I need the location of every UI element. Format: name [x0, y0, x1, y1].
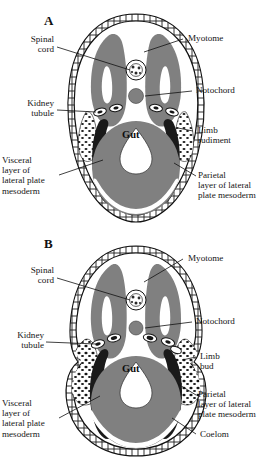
- label-spinal-cord-a: Spinal cord: [0, 34, 54, 54]
- embryo-body-a: [68, 14, 204, 222]
- label-visceral-layer-a: Visceral layer of lateral plate mesoderm: [2, 155, 62, 196]
- label-kidney-tubule-b: Kidney tubule: [0, 330, 44, 350]
- embryo-body-b: [66, 246, 206, 456]
- label-notochord-a: Notochord: [196, 85, 272, 95]
- label-coelom-b: Coelom: [200, 429, 272, 439]
- label-parietal-layer-a: Parietal layer of lateral plate mesoderm: [198, 170, 272, 201]
- panel-letter-b: B: [44, 236, 53, 252]
- panel-letter-a: A: [44, 13, 54, 29]
- notochord: [129, 89, 144, 104]
- panel-b: B Spinal cord Kidney tubule Visceral lay…: [0, 232, 272, 464]
- label-limb-rudiment-a: Limb rudiment: [198, 125, 272, 145]
- label-spinal-cord-b: Spinal cord: [0, 265, 54, 285]
- label-myotome-a: Myotome: [188, 33, 272, 43]
- panel-a: A Spinal cord Kidney tubule Visceral lay…: [0, 0, 272, 232]
- label-parietal-layer-b: Parietal layer of lateral plate mesoderm: [198, 389, 272, 420]
- label-myotome-b: Myotome: [188, 253, 272, 263]
- label-gut-b: Gut: [122, 363, 140, 374]
- label-visceral-layer-b: Visceral layer of lateral plate mesoderm: [2, 398, 62, 439]
- notochord: [129, 321, 143, 335]
- label-gut-a: Gut: [122, 129, 140, 140]
- label-limb-bud-b: Limb bud: [200, 351, 272, 371]
- label-kidney-tubule-a: Kidney tubule: [0, 98, 54, 118]
- label-notochord-b: Notochord: [196, 316, 272, 326]
